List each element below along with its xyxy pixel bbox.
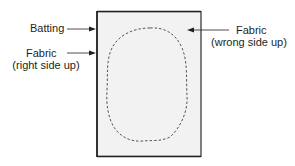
batting-arrow-head [89, 27, 96, 32]
batting-label: Batting [30, 22, 64, 34]
batting-layer [97, 12, 201, 156]
fabric-wrong-side-up-label: Fabric (wrong side up) [206, 24, 292, 48]
batting-label-text: Batting [30, 22, 64, 34]
fabric-right-line1: Fabric [4, 47, 88, 59]
fabric-wrong-line1: Fabric [206, 24, 292, 36]
fabric-right-arrow-head [89, 51, 96, 56]
quilt-layering-diagram: Batting Fabric (right side up) Fabric (w… [0, 0, 295, 166]
fabric-right-line2: (right side up) [4, 59, 88, 71]
fabric-wrong-line2: (wrong side up) [206, 36, 292, 48]
fabric-right-side-up-label: Fabric (right side up) [4, 47, 88, 71]
